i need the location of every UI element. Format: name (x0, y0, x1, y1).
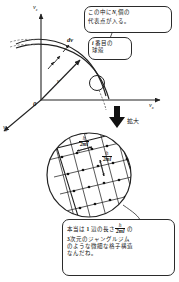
callout-shell-count-line2: 代表点が入る。 (88, 18, 168, 25)
dv-arrow-third (48, 62, 54, 69)
lattice-spacing-label-1: h 2ml (79, 136, 89, 147)
callout-lattice-line1a: 本当は (67, 226, 86, 232)
callout-shell-count: この中にNi 個の 代表点が入る。 (84, 6, 172, 33)
zoom-label: 拡大 (127, 118, 139, 124)
callout-lattice-line1c: の (126, 226, 133, 232)
callout-lattice-note-line3: のような微細な格子構造 (67, 243, 170, 250)
callout-lattice-note-line2: 3次元のジャングルジム (67, 236, 170, 243)
lattice-spacing-1-den: 2ml (79, 142, 89, 147)
callout-lattice-line2b: 次元のジャングルジム (70, 236, 130, 242)
callout-shell-count-sub: i (116, 13, 117, 17)
callout-shell-count-line1a: この中に (88, 9, 112, 15)
lattice-spacing-2-den: 2ml (102, 157, 112, 162)
callout-shell-index: i 番目の 球殻 (88, 37, 132, 60)
callout-lattice-note-line1: 本当は 1 辺の長さh2ml の (67, 223, 170, 235)
figure-canvas: vz vx vy 0 dv v 拡大 この中にNi 個の 代表点が入る。 i 番… (0, 0, 179, 282)
velocity-vector (41, 60, 80, 100)
callout-lattice-note-line4: なんだね。 (67, 250, 170, 257)
axis-label-vy: vy (3, 124, 8, 133)
callout-lattice-note: 本当は 1 辺の長さh2ml の 3次元のジャングルジム のような微細な格子構造… (62, 219, 175, 276)
axis-label-vz: vz (33, 4, 37, 13)
velocity-vector-label: v (57, 79, 59, 85)
lattice-spacing-label-2: h 2ml (102, 151, 112, 162)
zoom-down-arrow (109, 106, 125, 128)
callout-lattice-frac-den: 2ml (115, 229, 125, 234)
axis-label-vx-sub: x (152, 105, 154, 110)
origin-label: 0 (33, 101, 36, 108)
callout-lattice-line1b: 辺の長さ (89, 226, 114, 232)
callout-shell-index-line2: 球殻 (92, 47, 128, 54)
dv-arrow-lower (54, 56, 60, 63)
callout-shell-count-line1: この中にNi 個の (88, 9, 168, 18)
axis-label-vy-sub: y (6, 127, 8, 132)
callout-lattice-fraction: h2ml (115, 223, 125, 235)
callout-shell-count-line1b: 個の (118, 9, 130, 15)
axis-label-vz-sub: z (36, 7, 38, 12)
axis-label-vx: vx (149, 102, 154, 111)
callout-shell-index-line1b: 番目の (94, 40, 113, 46)
dv-label: dv (67, 37, 73, 43)
